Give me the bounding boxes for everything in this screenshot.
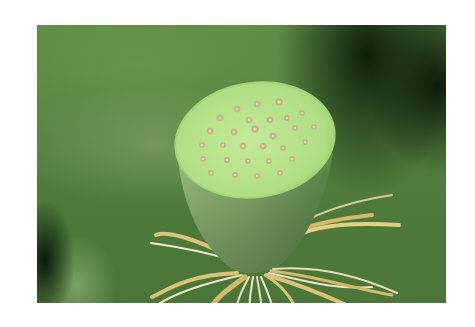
- lotus-pod-illustration: [37, 25, 446, 303]
- lotus-pod-photo: [37, 25, 446, 303]
- stamens-front: [152, 268, 397, 303]
